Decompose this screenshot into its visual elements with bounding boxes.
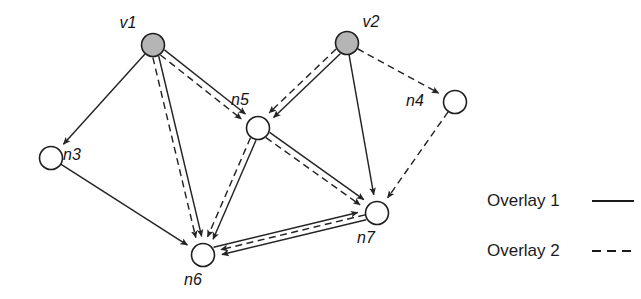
edge-v2-to-n7-overlay1 <box>349 55 374 195</box>
edge-n4-to-n7-overlay2 <box>388 112 448 198</box>
node-n4[interactable]: n4 <box>406 91 466 114</box>
legend-item-2: Overlay 2 <box>487 241 634 260</box>
edge-n7-to-n6-overlay2 <box>221 215 365 250</box>
legend-label-1: Overlay 1 <box>487 191 560 210</box>
edge-n5-to-n6-overlay1 <box>213 140 256 239</box>
edge-v1-to-n6-overlay2 <box>153 57 196 237</box>
edge-n5-to-n7-overlay2 <box>266 138 360 205</box>
edge-n3-to-n6-overlay1 <box>61 164 187 245</box>
node-v2[interactable]: v2 <box>336 13 380 55</box>
node-circle-n6[interactable] <box>192 244 215 267</box>
node-label-n3: n3 <box>63 146 81 163</box>
edge-v1-to-n3-overlay1 <box>63 54 145 144</box>
node-n3[interactable]: n3 <box>40 146 82 170</box>
node-label-n7: n7 <box>357 229 376 246</box>
legend: Overlay 1Overlay 2 <box>487 191 634 260</box>
edge-v2-to-n4-overlay2 <box>358 49 439 93</box>
node-label-n6: n6 <box>184 271 202 288</box>
node-n7[interactable]: n7 <box>357 202 388 247</box>
node-label-n4: n4 <box>406 92 424 109</box>
edge-n5-to-n7-overlay1 <box>270 132 364 199</box>
node-n6[interactable]: n6 <box>184 244 214 289</box>
node-circle-v2[interactable] <box>336 32 359 55</box>
edge-v1-to-n6-overlay1 <box>159 56 202 236</box>
edge-n5-to-n6-overlay2 <box>208 138 251 237</box>
node-circle-v1[interactable] <box>142 34 165 57</box>
edge-n6-to-n7-overlay1 <box>213 212 357 247</box>
edge-v2-to-n5-overlay2 <box>269 49 336 113</box>
legend-label-2: Overlay 2 <box>487 241 560 260</box>
node-label-v2: v2 <box>363 13 380 30</box>
edge-v1-to-n5-overlay2 <box>160 55 241 119</box>
node-circle-n7[interactable] <box>366 202 389 225</box>
node-circle-n3[interactable] <box>40 147 63 170</box>
legend-item-1: Overlay 1 <box>487 191 634 210</box>
edge-v2-to-n5-overlay1 <box>274 54 341 118</box>
node-circle-n4[interactable] <box>444 91 467 114</box>
node-label-n5: n5 <box>231 91 249 108</box>
edges-layer <box>61 49 448 255</box>
graph-canvas: v1v2n3n4n5n6n7 Overlay 1Overlay 2 <box>0 0 641 299</box>
node-circle-n5[interactable] <box>247 117 270 140</box>
edge-n7-to-n6-overlay1 <box>222 220 366 255</box>
node-v1[interactable]: v1 <box>120 14 165 57</box>
node-label-v1: v1 <box>120 14 137 31</box>
overlay-network-diagram: v1v2n3n4n5n6n7 Overlay 1Overlay 2 <box>0 0 641 299</box>
